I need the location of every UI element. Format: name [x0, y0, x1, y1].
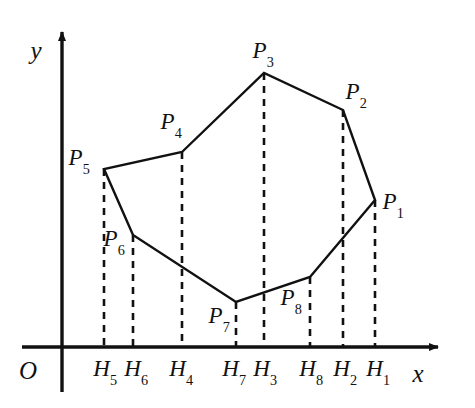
vertex-label-p4: P4 [160, 110, 181, 137]
vertex-label-p2: P2 [345, 80, 366, 107]
perpendicular-dashed-lines [104, 73, 375, 347]
foot-label-h2: H2 [333, 357, 357, 384]
foot-label-h3: H3 [253, 357, 277, 384]
vertex-label-p5: P5 [68, 146, 89, 173]
foot-label-h8: H8 [299, 357, 323, 384]
polygon-outline [104, 73, 375, 302]
foot-label-h6: H6 [124, 357, 148, 384]
vertex-label-p8: P8 [280, 286, 301, 313]
foot-label-h7: H7 [222, 357, 246, 384]
vertex-label-p1: P1 [382, 190, 403, 217]
diagram-canvas [0, 0, 475, 408]
vertex-label-p7: P7 [208, 304, 229, 331]
geometry-figure: P1H1P2H2P3H3P4H4P5H5P6H6P7H7P8H8Oxy [0, 0, 475, 408]
foot-label-h1: H1 [366, 357, 390, 384]
origin-label: O [19, 358, 37, 383]
vertex-label-p3: P3 [252, 39, 273, 66]
foot-label-h5: H5 [93, 357, 117, 384]
foot-label-h4: H4 [169, 357, 193, 384]
x-axis-label: x [412, 361, 423, 386]
vertex-label-p6: P6 [103, 227, 124, 254]
y-axis-label: y [30, 38, 41, 63]
